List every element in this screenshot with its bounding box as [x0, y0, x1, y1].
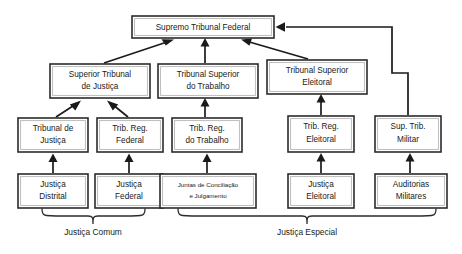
node-label-justica-eleitoral-line2: Eleitoral — [306, 192, 336, 201]
edge-auditorias-to-stm — [406, 153, 415, 173]
node-tribunal-de-justica[interactable]: Tribunal de Justiça — [18, 118, 88, 152]
node-label-justica-eleitoral-line1: Justiça — [308, 180, 334, 189]
node-tribunal-superior-do-trabalho[interactable]: Tribunal Superior do Trabalho — [158, 64, 258, 98]
brace-justica-comum: Justiça Comum — [42, 209, 145, 237]
brace-justica-especial: Justiça Especial — [178, 209, 436, 237]
node-label-tj-line1: Tribunal de — [33, 124, 74, 133]
node-label-tst-line1: Tribunal Superior — [177, 70, 240, 79]
node-label-juntas-line1: Juntas de Conciliação — [178, 181, 239, 188]
group-label-justica-comum: Justiça Comum — [64, 227, 122, 237]
node-label-stj-line1: Superior Tribunal — [69, 70, 132, 79]
edge-tj-to-stj — [56, 101, 81, 118]
node-label-justica-federal-line2: Federal — [115, 192, 143, 201]
node-label-stm-line1: Sup. Trib. — [390, 122, 425, 131]
edge-juntas-to-trt — [203, 154, 212, 174]
node-label-tre-line2: Eleitoral — [306, 135, 336, 144]
edge-justica-federal-to-trf — [125, 154, 134, 174]
node-label-tre-line1: Trib. Reg. — [303, 122, 339, 131]
node-trib-reg-do-trabalho[interactable]: Trib. Reg. do Trabalho — [172, 118, 242, 152]
node-label-tse-line2: Eleitoral — [302, 78, 332, 87]
node-label-juntas-line2: e Julgamento — [189, 192, 227, 199]
node-label-tj-line2: Justiça — [40, 136, 66, 145]
node-label-tse-line1: Tribunal Superior — [286, 66, 349, 75]
edge-stj-to-stf — [104, 39, 174, 63]
edge-tre-to-tse — [317, 94, 326, 115]
node-label-stf: Supremo Tribunal Federal — [156, 23, 251, 32]
node-label-trt-line1: Trib. Reg. — [189, 124, 225, 133]
node-trib-reg-eleitoral[interactable]: Trib. Reg. Eleitoral — [288, 116, 354, 152]
node-label-trf-line2: Federal — [116, 136, 144, 145]
node-supremo-tribunal-federal[interactable]: Supremo Tribunal Federal — [132, 16, 274, 38]
group-label-justica-especial: Justiça Especial — [277, 227, 337, 237]
node-superior-tribunal-de-justica[interactable]: Superior Tribunal de Justiça — [50, 64, 150, 98]
node-trib-reg-federal[interactable]: Trib. Reg. Federal — [97, 118, 163, 152]
edge-trt-to-tst — [201, 98, 210, 117]
node-label-justica-distrital-line2: Distrital — [39, 192, 66, 201]
node-label-trt-line2: do Trabalho — [185, 136, 229, 145]
judiciary-org-chart: Supremo Tribunal Federal Superior Tribun… — [0, 0, 462, 254]
node-label-justica-federal-line1: Justiça — [116, 180, 142, 189]
node-label-stj-line2: de Justiça — [82, 82, 119, 91]
node-label-trf-line1: Trib. Reg. — [112, 124, 148, 133]
node-label-auditorias-line1: Auditorias — [393, 180, 429, 189]
node-label-auditorias-line2: Militares — [396, 192, 426, 201]
edge-justica-eleitoral-to-tre — [317, 153, 326, 173]
edge-tst-to-stf — [201, 38, 210, 63]
org-chart-canvas: Supremo Tribunal Federal Superior Tribun… — [0, 0, 462, 254]
node-sup-trib-militar[interactable]: Sup. Trib. Militar — [375, 116, 441, 152]
node-juntas-de-conciliacao-e-julgamento[interactable]: Juntas de Conciliação e Julgamento — [160, 174, 256, 208]
node-justica-federal[interactable]: Justiça Federal — [95, 174, 163, 208]
node-label-tst-line2: do Trabalho — [186, 82, 230, 91]
node-auditorias-militares[interactable]: Auditorias Militares — [375, 174, 447, 208]
node-tribunal-superior-eleitoral[interactable]: Tribunal Superior Eleitoral — [267, 60, 367, 94]
node-justica-eleitoral[interactable]: Justiça Eleitoral — [288, 174, 354, 208]
edge-justica-distrital-to-tj — [49, 154, 58, 174]
edge-trf-to-stj — [107, 101, 128, 118]
node-label-stm-line2: Militar — [397, 135, 419, 144]
node-label-justica-distrital-line1: Justiça — [40, 180, 66, 189]
edge-tse-to-stf — [241, 39, 308, 59]
node-justica-distrital[interactable]: Justiça Distrital — [18, 174, 88, 208]
